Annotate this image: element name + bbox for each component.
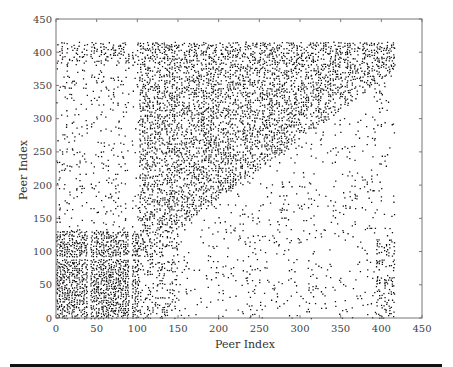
svg-text:100: 100 bbox=[33, 246, 52, 257]
svg-text:50: 50 bbox=[90, 323, 103, 334]
svg-text:0: 0 bbox=[46, 313, 52, 324]
svg-text:350: 350 bbox=[33, 80, 52, 91]
y-axis-label: Peer Index bbox=[17, 139, 30, 200]
svg-text:200: 200 bbox=[209, 323, 228, 334]
data-points bbox=[56, 42, 396, 320]
svg-text:50: 50 bbox=[39, 279, 52, 290]
svg-text:200: 200 bbox=[33, 180, 52, 191]
svg-text:0: 0 bbox=[53, 323, 59, 334]
svg-text:350: 350 bbox=[331, 323, 350, 334]
svg-text:400: 400 bbox=[33, 47, 52, 58]
svg-text:250: 250 bbox=[250, 323, 269, 334]
svg-text:300: 300 bbox=[290, 323, 309, 334]
svg-text:100: 100 bbox=[128, 323, 147, 334]
scatter-chart: 050100150200250300350400450 050100150200… bbox=[0, 0, 453, 367]
svg-text:400: 400 bbox=[372, 323, 391, 334]
svg-text:450: 450 bbox=[412, 323, 431, 334]
y-axis-ticks: 050100150200250300350400450 bbox=[33, 14, 422, 324]
svg-text:300: 300 bbox=[33, 113, 52, 124]
svg-text:250: 250 bbox=[33, 146, 52, 157]
svg-text:450: 450 bbox=[33, 14, 52, 25]
svg-text:150: 150 bbox=[168, 323, 187, 334]
x-axis-label: Peer Index bbox=[215, 338, 276, 351]
svg-text:150: 150 bbox=[33, 213, 52, 224]
